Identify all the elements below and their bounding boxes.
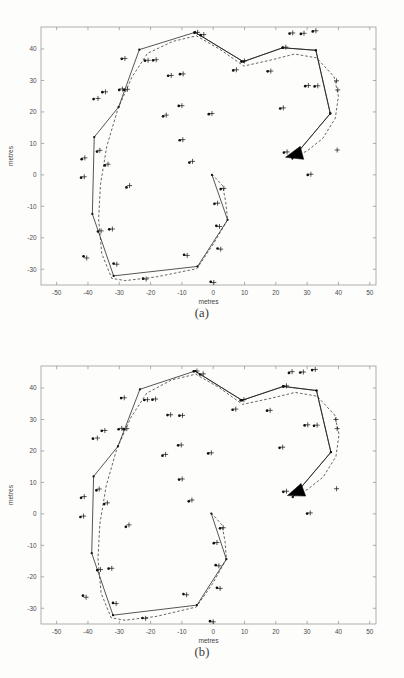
plot-axes-frame bbox=[41, 27, 376, 285]
y-tick-label: 0 bbox=[33, 510, 37, 517]
x-tick-label: 0 bbox=[211, 289, 215, 296]
figure-page: -50-40-30-20-1001020304050-30-20-1001020… bbox=[0, 0, 404, 678]
x-tick-label: 10 bbox=[241, 628, 249, 635]
plot-data-layer bbox=[79, 367, 340, 624]
y-axis-label: metres bbox=[7, 484, 14, 505]
x-tick-label: -40 bbox=[83, 289, 93, 296]
x-tick-label: -20 bbox=[146, 289, 156, 296]
x-tick-label: 40 bbox=[335, 628, 343, 635]
path-vertex-dot bbox=[138, 49, 140, 51]
x-tick-label: -10 bbox=[177, 289, 187, 296]
x-tick-label: -30 bbox=[115, 289, 125, 296]
landmark-estimate-dot bbox=[82, 255, 85, 258]
x-tick-label: 50 bbox=[366, 289, 374, 296]
landmark-estimate-dot bbox=[82, 594, 85, 597]
x-tick-label: -50 bbox=[52, 289, 62, 296]
x-tick-label: 30 bbox=[304, 289, 312, 296]
y-tick-label: -20 bbox=[27, 234, 37, 241]
path-vertex-dot bbox=[315, 49, 317, 51]
y-tick-label: 0 bbox=[33, 171, 37, 178]
true-path-line bbox=[98, 374, 339, 620]
scatter-plot-a: -50-40-30-20-1001020304050-30-20-1001020… bbox=[0, 0, 404, 310]
path-vertex-dot bbox=[112, 614, 114, 616]
x-tick-label: 20 bbox=[272, 628, 280, 635]
x-tick-label: -30 bbox=[115, 628, 125, 635]
landmark-estimate-dot bbox=[124, 525, 127, 528]
path-vertex-dot bbox=[93, 136, 95, 138]
x-tick-label: -40 bbox=[83, 628, 93, 635]
x-tick-label: 50 bbox=[366, 628, 374, 635]
x-tick-label: 10 bbox=[241, 289, 249, 296]
x-tick-label: 20 bbox=[272, 289, 280, 296]
y-tick-label: -30 bbox=[27, 605, 37, 612]
y-tick-label: 20 bbox=[29, 447, 37, 454]
y-axis-label: metres bbox=[7, 145, 14, 166]
path-vertex-dot bbox=[92, 475, 94, 477]
x-tick-label: -50 bbox=[52, 628, 62, 635]
y-tick-label: 40 bbox=[29, 384, 37, 391]
plot-data-layer bbox=[80, 28, 341, 285]
y-tick-label: 30 bbox=[29, 416, 37, 423]
x-tick-label: -10 bbox=[177, 628, 187, 635]
plot-axes-frame bbox=[41, 366, 376, 624]
x-tick-label: 30 bbox=[304, 628, 312, 635]
path-vertex-dot bbox=[91, 213, 93, 215]
figure-panel-a: -50-40-30-20-1001020304050-30-20-1001020… bbox=[0, 0, 404, 339]
landmark-estimate-dot bbox=[92, 98, 95, 101]
x-tick-label: -20 bbox=[146, 628, 156, 635]
landmark-estimate-dot bbox=[92, 437, 95, 440]
y-tick-label: 40 bbox=[29, 45, 37, 52]
y-tick-label: 10 bbox=[29, 479, 37, 486]
x-tick-label: 40 bbox=[335, 289, 343, 296]
y-tick-label: -30 bbox=[27, 266, 37, 273]
path-vertex-dot bbox=[329, 112, 331, 114]
figure-panel-b: -50-40-30-20-1001020304050-30-20-1001020… bbox=[0, 339, 404, 678]
y-tick-label: 30 bbox=[29, 77, 37, 84]
x-axis-label: metres bbox=[198, 298, 219, 305]
path-vertex-dot bbox=[139, 388, 141, 390]
scatter-plot-b: -50-40-30-20-1001020304050-30-20-1001020… bbox=[0, 339, 404, 649]
y-tick-label: 20 bbox=[29, 108, 37, 115]
y-tick-label: -20 bbox=[27, 573, 37, 580]
x-tick-label: 0 bbox=[211, 628, 215, 635]
vehicle-pose-triangle bbox=[286, 146, 304, 159]
y-tick-label: -10 bbox=[27, 542, 37, 549]
path-vertex-dot bbox=[292, 496, 294, 498]
path-vertex-dot bbox=[112, 275, 114, 277]
panel-caption-a: (a) bbox=[0, 306, 404, 321]
y-tick-label: 10 bbox=[29, 140, 37, 147]
y-tick-label: -10 bbox=[27, 203, 37, 210]
landmark-estimate-dot bbox=[125, 186, 128, 189]
path-vertex-dot bbox=[315, 389, 317, 391]
path-vertex-dot bbox=[330, 451, 332, 453]
path-vertex-dot bbox=[91, 552, 93, 554]
x-axis-label: metres bbox=[198, 637, 219, 644]
panel-caption-b: (b) bbox=[0, 645, 404, 660]
